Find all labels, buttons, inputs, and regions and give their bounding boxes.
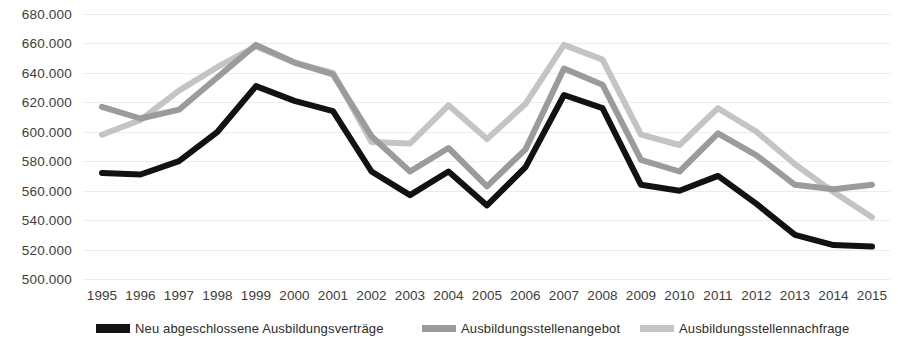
x-tick-label: 2002	[356, 288, 386, 303]
x-tick-label: 2003	[395, 288, 425, 303]
y-tick-label: 660.000	[22, 36, 72, 51]
x-tick-label: 2011	[703, 288, 732, 303]
x-tick-label: 1996	[125, 288, 155, 303]
line-chart: 680.000660.000640.000620.000600.000580.0…	[0, 0, 898, 343]
legend-color-swatch	[640, 325, 674, 332]
x-tick-label: 2001	[318, 288, 348, 303]
legend-label: Neu abgeschlossene Ausbildungsverträge	[135, 321, 384, 336]
x-tick-label: 2008	[587, 288, 617, 303]
x-tick-label: 1995	[87, 288, 117, 303]
x-tick-label: 1998	[202, 288, 232, 303]
x-tick-label: 2015	[857, 288, 887, 303]
x-tick-label: 2000	[279, 288, 309, 303]
x-axis: 1995199619971998199920002001200220032004…	[84, 288, 890, 312]
y-tick-label: 500.000	[22, 272, 72, 287]
x-tick-label: 2004	[433, 288, 463, 303]
x-tick-label: 2013	[780, 288, 810, 303]
y-axis: 680.000660.000640.000620.000600.000580.0…	[0, 0, 82, 290]
y-tick-label: 520.000	[22, 242, 72, 257]
legend-color-swatch	[96, 324, 130, 333]
y-tick-label: 640.000	[22, 65, 72, 80]
legend-item[interactable]: Ausbildungsstellennachfrage	[640, 318, 849, 338]
x-tick-label: 2005	[472, 288, 502, 303]
legend-label: Ausbildungsstellenangebot	[461, 321, 620, 336]
x-tick-label: 1997	[164, 288, 194, 303]
legend-label: Ausbildungsstellennachfrage	[679, 321, 849, 336]
y-tick-label: 540.000	[22, 213, 72, 228]
x-tick-label: 2009	[626, 288, 656, 303]
x-tick-label: 2014	[818, 288, 848, 303]
legend-color-swatch	[422, 325, 456, 332]
legend-item[interactable]: Ausbildungsstellenangebot	[422, 318, 620, 338]
x-tick-label: 2007	[549, 288, 579, 303]
y-tick-label: 580.000	[22, 154, 72, 169]
series-container	[84, 0, 890, 285]
legend-item[interactable]: Neu abgeschlossene Ausbildungsverträge	[96, 318, 384, 338]
y-tick-label: 560.000	[22, 183, 72, 198]
chart-legend: Neu abgeschlossene AusbildungsverträgeAu…	[0, 318, 898, 343]
plot-area	[84, 0, 890, 285]
series-line	[102, 86, 872, 247]
y-tick-label: 620.000	[22, 95, 72, 110]
x-tick-label: 1999	[241, 288, 271, 303]
x-tick-label: 2006	[510, 288, 540, 303]
y-tick-label: 680.000	[22, 7, 72, 22]
x-tick-label: 2012	[741, 288, 771, 303]
y-tick-label: 600.000	[22, 124, 72, 139]
x-tick-label: 2010	[664, 288, 694, 303]
